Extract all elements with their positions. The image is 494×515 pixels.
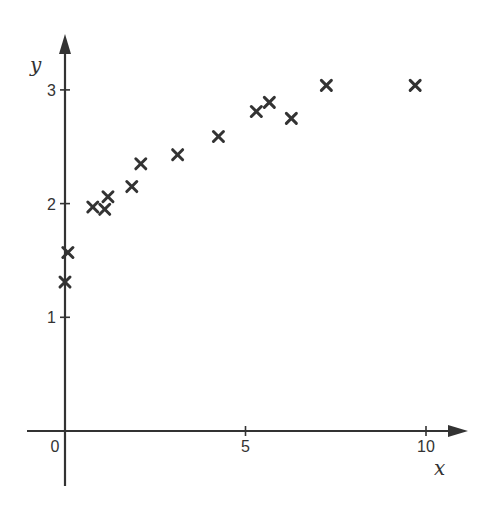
data-point-marker: [286, 113, 296, 123]
data-point-marker: [88, 202, 98, 212]
data-point-marker: [136, 159, 146, 169]
data-point-marker: [127, 182, 137, 192]
data-point-marker: [321, 80, 331, 90]
data-points: [60, 80, 420, 287]
data-point-marker: [264, 97, 274, 107]
data-point-marker: [213, 132, 223, 142]
data-point-marker: [173, 150, 183, 160]
data-point-marker: [100, 204, 110, 214]
data-point-marker: [103, 192, 113, 202]
scatter-plot: 0510123 x y: [0, 0, 494, 515]
x-tick-label: 5: [241, 438, 250, 455]
x-tick-label: 10: [417, 438, 435, 455]
y-axis-label: y: [29, 53, 42, 77]
y-tick-label: 3: [47, 82, 56, 99]
y-tick-label: 1: [47, 309, 56, 326]
data-point-marker: [251, 107, 261, 117]
x-tick-label: 0: [51, 438, 60, 455]
x-axis-label: x: [434, 456, 445, 480]
x-axis-arrow-icon: [448, 425, 468, 437]
axes: [27, 34, 468, 486]
y-tick-label: 2: [47, 196, 56, 213]
ticks: 0510123: [47, 82, 435, 455]
y-axis-arrow-icon: [59, 34, 71, 54]
data-point-marker: [410, 80, 420, 90]
